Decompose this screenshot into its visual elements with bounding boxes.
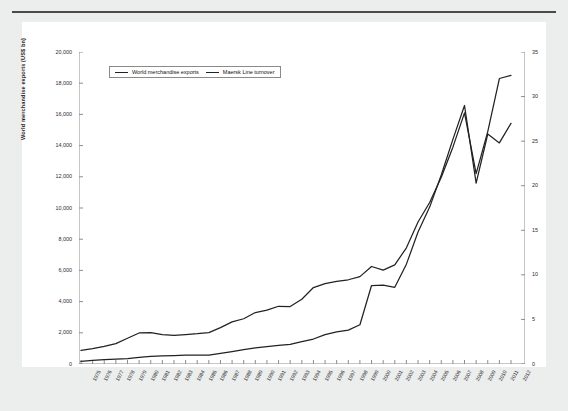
left-tick-label: 10,000 [32, 205, 72, 211]
x-tick-label: 1998 [358, 369, 369, 382]
right-tick-label: 0 [532, 361, 535, 367]
tick-marks [79, 52, 525, 364]
plot-area [79, 52, 525, 364]
x-tick-label: 2005 [439, 369, 450, 382]
x-tick-label: 1978 [125, 369, 136, 382]
axis-lines [79, 52, 525, 364]
x-tick-label: 1989 [253, 369, 264, 382]
x-tick-label: 1988 [242, 369, 253, 382]
x-tick-label: 1982 [172, 369, 183, 382]
right-tick-label: 30 [532, 93, 538, 99]
chart-panel: World merchandise exports (US$ bn) Maers… [22, 22, 546, 367]
x-tick-label: 1985 [207, 369, 218, 382]
left-tick-label: 18,000 [32, 80, 72, 86]
x-tick-label: 2009 [486, 369, 497, 382]
x-tick-label: 1981 [160, 369, 171, 382]
series-lines [81, 75, 511, 361]
x-tick-label: 2010 [497, 369, 508, 382]
left-tick-label: 6,000 [32, 267, 72, 273]
legend-label-1: Maersk Line turnover [223, 69, 275, 75]
chart-legend: World merchandise exports Maersk Line tu… [109, 66, 281, 78]
x-tick-label: 1993 [300, 369, 311, 382]
left-axis-title: World merchandise exports (US$ bn) [20, 38, 26, 140]
x-tick-label: 1979 [137, 369, 148, 382]
x-tick-label: 2000 [381, 369, 392, 382]
right-tick-label: 10 [532, 271, 538, 277]
chart-page: World merchandise exports (US$ bn) Maers… [0, 0, 568, 411]
series-line-0 [81, 75, 511, 350]
x-tick-label: 1997 [346, 369, 357, 382]
right-tick-label: 35 [532, 49, 538, 55]
x-tick-label: 1980 [149, 369, 160, 382]
left-tick-label: 0 [32, 361, 72, 367]
x-tick-label: 1975 [91, 369, 102, 382]
left-tick-label: 12,000 [32, 173, 72, 179]
x-tick-label: 2008 [474, 369, 485, 382]
chart-svg [79, 52, 525, 364]
x-tick-label: 1995 [323, 369, 334, 382]
left-tick-label: 8,000 [32, 236, 72, 242]
x-tick-label: 2007 [463, 369, 474, 382]
x-tick-label: 1990 [265, 369, 276, 382]
x-tick-label: 1976 [102, 369, 113, 382]
right-tick-label: 25 [532, 138, 538, 144]
top-divider-rule [12, 11, 556, 13]
x-tick-label: 1996 [335, 369, 346, 382]
right-tick-label: 5 [532, 316, 535, 322]
x-tick-label: 2011 [509, 369, 520, 382]
right-tick-label: 15 [532, 227, 538, 233]
legend-label-0: World merchandise exports [132, 69, 199, 75]
x-tick-label: 2012 [521, 369, 532, 382]
left-tick-label: 4,000 [32, 298, 72, 304]
x-tick-label: 2001 [393, 369, 404, 382]
x-tick-label: 1992 [288, 369, 299, 382]
x-tick-label: 1987 [230, 369, 241, 382]
x-tick-label: 1977 [114, 369, 125, 382]
x-tick-label: 1984 [195, 369, 206, 382]
left-tick-label: 2,000 [32, 329, 72, 335]
x-tick-label: 2006 [451, 369, 462, 382]
x-tick-label: 2004 [428, 369, 439, 382]
left-tick-label: 14,000 [32, 142, 72, 148]
x-tick-label: 1986 [218, 369, 229, 382]
x-tick-label: 2003 [416, 369, 427, 382]
left-tick-label: 16,000 [32, 111, 72, 117]
x-tick-label: 1983 [184, 369, 195, 382]
series-line-1 [81, 105, 511, 361]
legend-swatch-line-icon [206, 72, 219, 73]
x-tick-label: 1994 [311, 369, 322, 382]
x-tick-label: 2002 [404, 369, 415, 382]
x-tick-label: 1999 [370, 369, 381, 382]
legend-item-1: Maersk Line turnover [206, 69, 275, 75]
legend-item-0: World merchandise exports [115, 69, 199, 75]
right-tick-label: 20 [532, 182, 538, 188]
legend-swatch-line-icon [115, 72, 128, 73]
x-tick-label: 1991 [277, 369, 288, 382]
left-tick-label: 20,000 [32, 49, 72, 55]
